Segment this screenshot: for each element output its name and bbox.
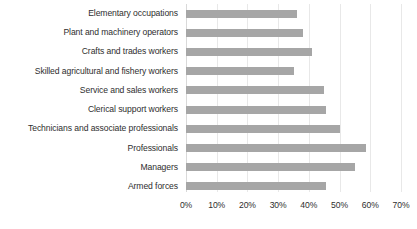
category-label: Crafts and trades workers (0, 42, 182, 61)
bars-container (186, 0, 401, 196)
bar (186, 163, 355, 171)
category-label: Clerical support workers (0, 100, 182, 119)
bar-row (186, 81, 401, 100)
bar (186, 144, 366, 152)
bar (186, 125, 340, 133)
bar (186, 67, 294, 75)
plot-area: Elementary occupationsPlant and machiner… (0, 0, 417, 196)
category-label: Managers (0, 158, 182, 177)
category-label: Armed forces (0, 177, 182, 196)
gridline (401, 4, 402, 192)
bar-row (186, 42, 401, 61)
bar (186, 48, 312, 56)
x-tick-label: 50% (331, 200, 348, 210)
category-axis-labels: Elementary occupationsPlant and machiner… (0, 0, 182, 196)
x-tick-label: 20% (239, 200, 256, 210)
x-tick-label: 10% (208, 200, 225, 210)
bar-row (186, 4, 401, 23)
bar (186, 29, 303, 37)
x-tick-label: 60% (362, 200, 379, 210)
bar-row (186, 100, 401, 119)
category-label: Skilled agricultural and fishery workers (0, 62, 182, 81)
category-label: Plant and machinery operators (0, 23, 182, 42)
bar-chart: Elementary occupationsPlant and machiner… (0, 0, 417, 229)
x-tick-label: 70% (393, 200, 410, 210)
bar (186, 10, 297, 18)
category-label: Technicians and associate professionals (0, 119, 182, 138)
x-tick-label: 40% (300, 200, 317, 210)
category-label: Professionals (0, 138, 182, 157)
bar-row (186, 177, 401, 196)
bar-row (186, 62, 401, 81)
bar (186, 182, 326, 190)
x-tick-label: 0% (180, 200, 192, 210)
x-axis-tick-labels: 0%10%20%30%40%50%60%70% (186, 196, 401, 218)
x-tick-label: 30% (270, 200, 287, 210)
bar-row (186, 158, 401, 177)
bar (186, 86, 324, 94)
bar (186, 106, 326, 114)
category-label: Service and sales workers (0, 81, 182, 100)
bar-row (186, 23, 401, 42)
category-label: Elementary occupations (0, 4, 182, 23)
bar-row (186, 119, 401, 138)
bar-row (186, 138, 401, 157)
